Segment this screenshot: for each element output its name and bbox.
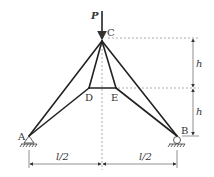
roller-support-icon	[168, 137, 185, 148]
node-label-a: A	[17, 131, 26, 142]
dimension-label-h-lower: h	[196, 106, 202, 117]
member-cd	[89, 41, 102, 88]
truss-diagram: P C D E A B h h l/2 l/2	[0, 0, 214, 177]
node-label-c: C	[107, 27, 115, 38]
node-label-b: B	[181, 125, 188, 136]
truss-members	[29, 41, 177, 136]
horizontal-dimension	[29, 150, 177, 168]
node-label-d: D	[85, 92, 93, 103]
dimension-label-l2-right: l/2	[139, 151, 152, 162]
dimension-label-l2-left: l/2	[56, 151, 69, 162]
member-ce	[102, 41, 116, 88]
load-label: P	[90, 10, 99, 21]
node-label-e: E	[111, 92, 118, 103]
member-ad	[29, 88, 89, 136]
member-be	[116, 88, 177, 136]
dimension-label-h-upper: h	[196, 58, 202, 69]
